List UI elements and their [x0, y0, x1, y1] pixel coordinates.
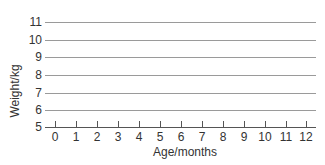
gridline-6 — [45, 110, 316, 111]
x-tick-7: 7 — [192, 131, 212, 143]
y-tick-11: 11 — [26, 16, 42, 28]
x-tick-3: 3 — [108, 131, 128, 143]
x-tick-5: 5 — [150, 131, 170, 143]
gridline-9 — [45, 57, 316, 58]
x-tickmark — [265, 121, 266, 127]
x-tick-11: 11 — [276, 131, 296, 143]
y-tick-10: 10 — [26, 34, 42, 46]
x-tick-0: 0 — [45, 131, 65, 143]
y-tick-5: 5 — [26, 121, 42, 133]
x-tickmark — [223, 121, 224, 127]
gridline-10 — [45, 40, 316, 41]
x-tick-6: 6 — [171, 131, 191, 143]
y-tick-9: 9 — [26, 51, 42, 63]
x-tickmark — [118, 121, 119, 127]
gridline-11 — [45, 22, 316, 23]
x-tickmark — [97, 121, 98, 127]
y-axis-label: Weight/kg — [8, 56, 22, 126]
x-tickmark — [286, 121, 287, 127]
x-tick-2: 2 — [87, 131, 107, 143]
x-tickmark — [76, 121, 77, 127]
y-tick-7: 7 — [26, 87, 42, 99]
x-tick-8: 8 — [213, 131, 233, 143]
x-tick-12: 12 — [296, 131, 316, 143]
weight-age-chart: Weight/kg 11 10 9 8 7 6 5 0 1 2 3 4 5 6 … — [0, 0, 325, 165]
gridline-8 — [45, 75, 316, 76]
x-tickmark — [306, 121, 307, 127]
x-tickmark — [160, 121, 161, 127]
x-tick-4: 4 — [129, 131, 149, 143]
x-tickmark — [202, 121, 203, 127]
gridline-7 — [45, 93, 316, 94]
x-tick-9: 9 — [234, 131, 254, 143]
x-tickmark — [139, 121, 140, 127]
x-tick-10: 10 — [255, 131, 275, 143]
x-tickmark — [181, 121, 182, 127]
x-tickmark — [55, 121, 56, 127]
y-tick-6: 6 — [26, 104, 42, 116]
y-tick-8: 8 — [26, 69, 42, 81]
x-tickmark — [244, 121, 245, 127]
x-axis-label: Age/months — [120, 145, 250, 159]
x-axis-line — [45, 127, 316, 128]
x-tick-1: 1 — [66, 131, 86, 143]
